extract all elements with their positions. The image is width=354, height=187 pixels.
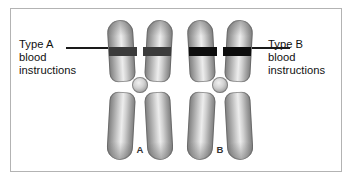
chromosome-a-centromere: [132, 77, 148, 93]
chromosome-a-gene-band-left: [109, 47, 137, 56]
chromosome-b-label: B: [184, 144, 256, 155]
callout-right-line3: instructions: [268, 64, 325, 77]
callout-right-line2: blood: [268, 51, 325, 64]
chromosome-b-centromere: [212, 77, 228, 93]
chromosome-a-label: A: [104, 144, 176, 155]
chromosome-diagram: Type A blood instructions Type B blood i…: [0, 0, 354, 187]
callout-left-line3: instructions: [19, 64, 76, 77]
chromosome-b: [184, 20, 256, 160]
callout-label-right: Type B blood instructions: [268, 38, 325, 78]
chromosome-a: [104, 20, 176, 160]
callout-label-left: Type A blood instructions: [19, 38, 76, 78]
chromosome-b-gene-band-right: [223, 47, 251, 56]
chromosome-b-gene-band-left: [189, 47, 217, 56]
callout-left-line1: Type A: [19, 38, 76, 51]
callout-left-line2: blood: [19, 51, 76, 64]
diagram-frame: [10, 8, 342, 172]
chromosome-a-gene-band-right: [143, 47, 171, 56]
callout-right-line1: Type B: [268, 38, 325, 51]
